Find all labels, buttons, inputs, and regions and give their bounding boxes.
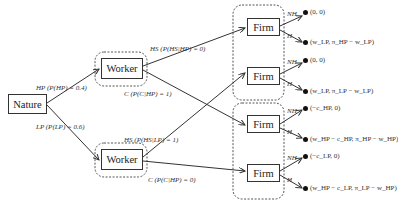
nature-node: Nature bbox=[8, 94, 47, 114]
payoff-6: (w_HP − c_HP, π_HP − w_HP) bbox=[303, 135, 398, 143]
worker-node-lp: Worker bbox=[101, 149, 143, 170]
payoff-7: (−c_LP, 0) bbox=[303, 152, 340, 160]
firm-node-4: Firm bbox=[247, 164, 280, 182]
payoff-3: (0, 0) bbox=[303, 56, 325, 64]
payoff-2: (w_LP, π_HP − w_LP) bbox=[303, 38, 374, 46]
terminal-node-icon bbox=[303, 89, 308, 94]
edge-label-firm1-h: H bbox=[287, 32, 292, 40]
edge-label-firm1-nh: NH bbox=[287, 10, 297, 18]
edge-label-firm3-h: H bbox=[287, 128, 292, 136]
edge-label-firm3-nh: NH bbox=[287, 107, 297, 115]
edge-label-lp: LP (P(LP) = 0.6) bbox=[36, 123, 85, 131]
terminal-node-icon bbox=[303, 154, 308, 159]
payoff-4: (w_LP, π_LP − w_LP) bbox=[303, 87, 373, 95]
payoff-5: (−c_HP, 0) bbox=[303, 104, 340, 112]
worker-node-hp: Worker bbox=[101, 58, 143, 79]
edge-label-firm2-nh: NH bbox=[287, 58, 297, 66]
edge-label-hs-hp: HS (P(HS|HP) = 0) bbox=[150, 45, 205, 53]
edge-label-firm2-h: H bbox=[287, 80, 292, 88]
payoff-8: (w_HP − c_LP, π_LP − w_HP) bbox=[303, 184, 397, 192]
firm-node-3: Firm bbox=[247, 115, 280, 133]
terminal-node-icon bbox=[303, 10, 308, 15]
firm-node-2: Firm bbox=[247, 67, 280, 85]
terminal-node-icon bbox=[303, 186, 308, 191]
terminal-node-icon bbox=[303, 58, 308, 63]
terminal-node-icon bbox=[303, 40, 308, 45]
edge-label-firm4-nh: NH bbox=[287, 154, 297, 162]
edge-label-hs-lp: HS (P(HS|LP) = 1) bbox=[124, 136, 178, 144]
firm-node-1: Firm bbox=[247, 18, 280, 36]
terminal-node-icon bbox=[303, 137, 308, 142]
payoff-1: (0, 0) bbox=[303, 8, 325, 16]
edge-label-c-hp: C (P(C|HP) = 1) bbox=[124, 90, 172, 98]
terminal-node-icon bbox=[303, 106, 308, 111]
edge-label-c-lp: C (P(C|HP) = 0) bbox=[148, 176, 196, 184]
edge-label-firm4-h: H bbox=[287, 176, 292, 184]
edge-label-hp: HP (P(HP) = 0.4) bbox=[36, 84, 87, 92]
